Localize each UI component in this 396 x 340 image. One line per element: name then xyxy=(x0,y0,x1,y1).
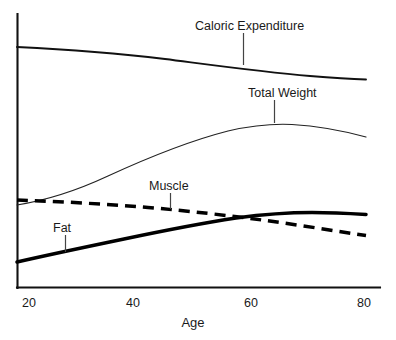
chart-background xyxy=(0,0,396,340)
chart-container: Caloric Expenditure Total Weight Muscle … xyxy=(0,0,396,340)
series-label-total-weight: Total Weight xyxy=(248,86,317,100)
series-label-muscle: Muscle xyxy=(149,179,189,193)
x-tick-label-20: 20 xyxy=(22,296,36,310)
x-axis-title: Age xyxy=(181,315,204,330)
line-chart-figure: Caloric Expenditure Total Weight Muscle … xyxy=(0,0,396,340)
x-tick-label-60: 60 xyxy=(244,296,258,310)
series-label-fat: Fat xyxy=(53,221,72,235)
series-label-caloric-expenditure: Caloric Expenditure xyxy=(195,19,304,33)
x-tick-label-80: 80 xyxy=(357,296,371,310)
x-tick-label-40: 40 xyxy=(126,296,140,310)
